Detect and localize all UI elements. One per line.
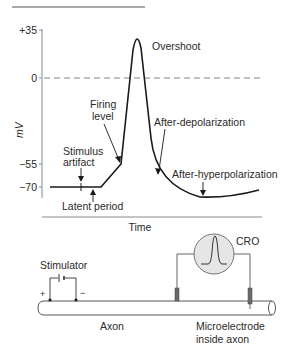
microelectrode-label-line1: Microelectrode: [196, 320, 265, 332]
y-axis-label: mV: [13, 121, 25, 138]
overshoot-label: Overshoot: [152, 40, 201, 52]
stimulator-label: Stimulator: [40, 259, 88, 271]
stimulator-wire: [65, 278, 76, 299]
stimulator-wire: [50, 278, 58, 299]
recording-apparatus: Stimulator + − Axon CRO Microelectrode i…: [38, 234, 276, 345]
cro-wire-right: [234, 254, 250, 288]
tick-label-minus55: −55: [19, 158, 37, 170]
firing-level-label-line1: Firing: [90, 98, 116, 110]
action-potential-graph: +35 0 −55 −70 mV Time Overshoot Firing l…: [13, 24, 278, 233]
after-depolarization-arrow: [159, 129, 165, 170]
tick-label-minus70: −70: [19, 181, 37, 193]
microelectrode-label-line2: inside axon: [196, 333, 249, 345]
cro-wire-left: [177, 254, 194, 288]
minus-sign: −: [80, 288, 85, 298]
plus-sign: +: [40, 289, 45, 299]
axon-cut-end: [269, 301, 276, 315]
cro-screen: [194, 234, 234, 274]
arrow-head-icon: [90, 189, 96, 195]
firing-level-label-line2: level: [92, 110, 114, 122]
arrow-head-icon: [200, 190, 206, 196]
axon-outline: [44, 301, 272, 315]
axon-label: Axon: [100, 320, 124, 332]
surface-electrode: [175, 288, 179, 301]
axon-end-cap: [38, 301, 44, 315]
after-hyperpolarization-label: After-hyperpolarization: [172, 168, 278, 180]
arrow-head-icon: [115, 156, 121, 163]
x-axis-label: Time: [129, 221, 152, 233]
latent-period-label: Latent period: [62, 200, 123, 212]
tick-label-plus35: +35: [19, 24, 37, 36]
action-potential-figure: +35 0 −55 −70 mV Time Overshoot Firing l…: [0, 0, 293, 354]
firing-level-arrow: [104, 124, 119, 160]
tick-label-0: 0: [31, 72, 37, 84]
arrow-head-icon: [78, 176, 84, 182]
cro-label: CRO: [236, 235, 259, 247]
stimulus-artifact-label-line2: artifact: [63, 156, 95, 168]
microelectrode: [248, 288, 252, 304]
after-depolarization-label: After-depolarization: [154, 116, 245, 128]
arrow-head-icon: [155, 168, 161, 175]
